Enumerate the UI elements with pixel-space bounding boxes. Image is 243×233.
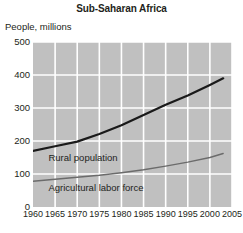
y-tick-200: 200	[2, 136, 30, 146]
x-tick-1990: 1990	[156, 210, 176, 219]
y-axis-tick-labels: 0100200300400500	[0, 0, 30, 233]
y-tick-300: 300	[2, 103, 30, 113]
x-tick-1980: 1980	[111, 210, 131, 219]
chart-figure: Sub-Saharan Africa People, millions 0100…	[0, 0, 243, 233]
x-tick-2005: 2005	[222, 210, 242, 219]
y-tick-500: 500	[2, 37, 30, 47]
y-tick-400: 400	[2, 70, 30, 80]
x-tick-1985: 1985	[134, 210, 154, 219]
series-label-2: Agricultural labor force	[48, 182, 143, 193]
x-tick-2000: 2000	[200, 210, 220, 219]
x-tick-1965: 1965	[45, 210, 65, 219]
x-axis-tick-labels: 1960196519701975198019851990199520002005	[33, 210, 232, 226]
x-tick-1975: 1975	[89, 210, 109, 219]
x-tick-1995: 1995	[178, 210, 198, 219]
chart-title: Sub-Saharan Africa	[0, 3, 243, 14]
series-label-1: Rural population	[48, 152, 117, 163]
y-tick-100: 100	[2, 169, 30, 179]
x-tick-1970: 1970	[67, 210, 87, 219]
x-tick-1960: 1960	[23, 210, 43, 219]
plot-area: Rural populationAgricultural labor force	[33, 42, 232, 207]
